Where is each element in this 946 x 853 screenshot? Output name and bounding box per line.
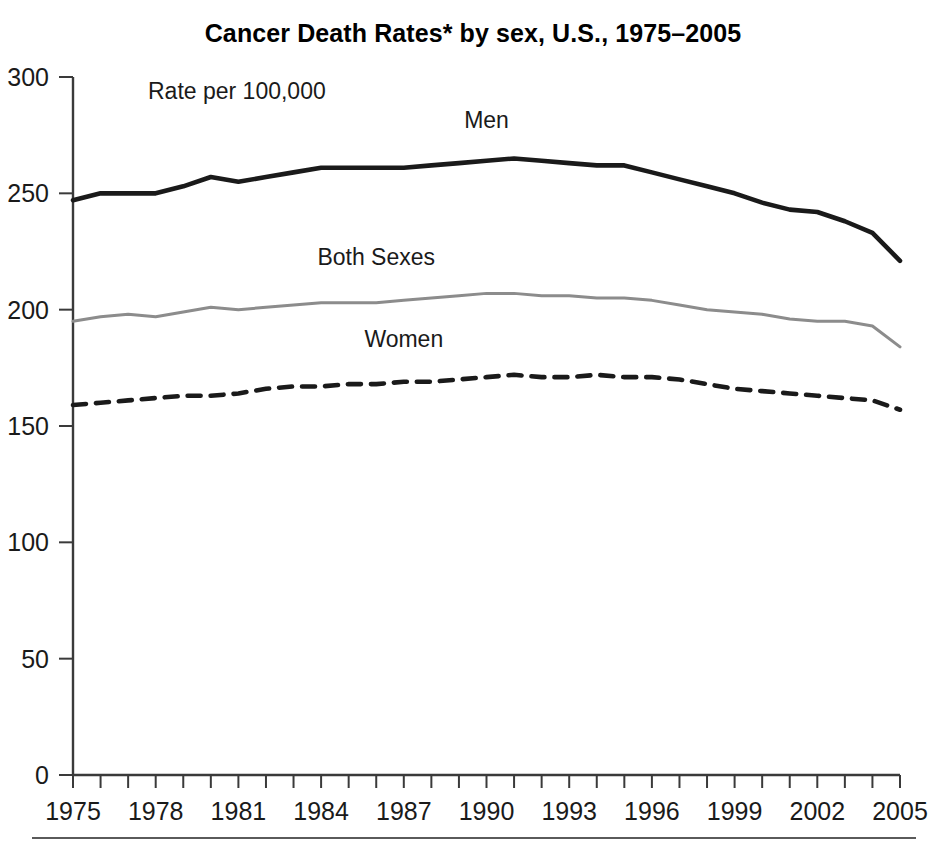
- x-axis-tick-labels: 1975197819811984198719901993199619992002…: [45, 797, 928, 825]
- x-tick-label-1996: 1996: [624, 797, 680, 825]
- series-label-women: Women: [364, 326, 443, 352]
- series-line-both-sexes: [73, 293, 900, 347]
- series-label-both-sexes: Both Sexes: [317, 244, 435, 270]
- rate-unit-annotation: Rate per 100,000: [148, 78, 326, 104]
- x-tick-label-1999: 1999: [707, 797, 763, 825]
- footer-rule: [32, 837, 916, 839]
- x-tick-label-1993: 1993: [541, 797, 597, 825]
- x-tick-label-1978: 1978: [128, 797, 184, 825]
- series-line-men: [73, 158, 900, 260]
- x-tick-label-1987: 1987: [376, 797, 432, 825]
- x-tick-label-1990: 1990: [459, 797, 515, 825]
- x-tick-label-1981: 1981: [211, 797, 267, 825]
- x-tick-label-1975: 1975: [45, 797, 101, 825]
- y-axis-tick-labels: 050100150200250300: [7, 63, 49, 789]
- series-line-women: [73, 375, 900, 410]
- y-tick-label-0: 0: [35, 761, 49, 789]
- y-axis-ticks: [59, 77, 73, 775]
- y-tick-label-150: 150: [7, 412, 49, 440]
- y-tick-label-200: 200: [7, 296, 49, 324]
- x-tick-label-2005: 2005: [872, 797, 928, 825]
- y-tick-label-300: 300: [7, 63, 49, 91]
- series-inline-labels: MenBoth SexesWomen: [317, 107, 508, 352]
- y-tick-label-50: 50: [21, 645, 49, 673]
- y-tick-label-250: 250: [7, 179, 49, 207]
- x-tick-label-2002: 2002: [789, 797, 845, 825]
- x-axis-minor-ticks: [73, 775, 900, 788]
- cancer-death-rates-line-chart: 050100150200250300 197519781981198419871…: [0, 0, 946, 853]
- chart-figure: Cancer Death Rates* by sex, U.S., 1975–2…: [0, 0, 946, 853]
- series-label-men: Men: [464, 107, 509, 133]
- x-tick-label-1984: 1984: [293, 797, 349, 825]
- data-series-group: [73, 158, 900, 409]
- y-tick-label-100: 100: [7, 528, 49, 556]
